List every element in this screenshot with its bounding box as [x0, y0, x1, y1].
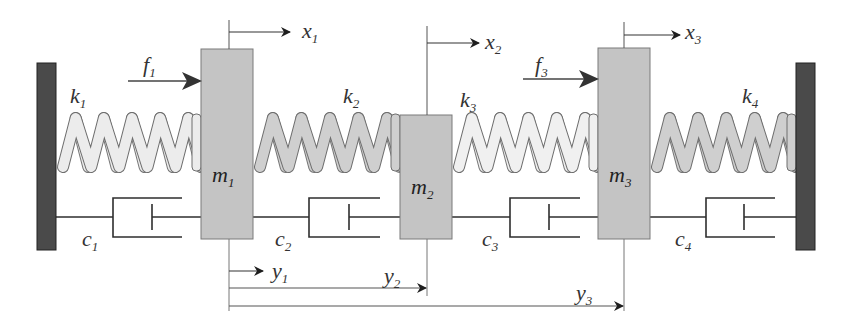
label-y3: y3	[574, 280, 593, 308]
label-y2: y2	[382, 263, 401, 291]
label-c1: c1	[82, 226, 98, 254]
label-c3: c3	[482, 226, 499, 254]
spring-k4	[657, 114, 799, 171]
right-wall	[796, 63, 815, 250]
label-x1: x1	[301, 18, 318, 46]
left-wall	[37, 63, 56, 250]
label-x2: x2	[484, 29, 502, 57]
label-c4: c4	[675, 226, 692, 254]
label-f1: f1	[143, 52, 156, 80]
damper-c3	[452, 198, 598, 237]
spring-k1	[63, 114, 204, 171]
label-k4: k4	[742, 83, 759, 111]
mass-m1	[201, 49, 253, 239]
label-k1: k1	[70, 83, 86, 111]
label-y1: y1	[270, 258, 288, 286]
damper-c4	[650, 198, 796, 237]
label-k2: k2	[343, 83, 360, 111]
mass-m3	[598, 48, 650, 239]
label-k3: k3	[460, 87, 477, 115]
spring-k3	[459, 114, 601, 171]
spring-k2	[260, 114, 403, 171]
label-c2: c2	[275, 226, 292, 254]
spring-mass-damper-diagram: m1m2m3k1k2k3k4c1c2c3c4f1f3x1x2x3y1y2y3	[0, 0, 843, 329]
label-x3: x3	[684, 19, 702, 47]
label-f3: f3	[535, 52, 548, 80]
damper-c1	[56, 198, 201, 237]
